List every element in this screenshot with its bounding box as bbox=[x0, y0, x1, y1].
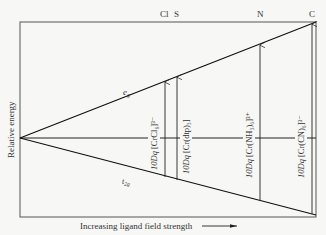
t2g-label: t2g bbox=[122, 177, 130, 187]
plot-frame bbox=[20, 22, 316, 217]
energy-diagram: 10Dq [CrCl₆]³⁻ 10Dq [Cr(dtp)₃] 10Dq [Cr(… bbox=[0, 0, 326, 235]
donor-n: N bbox=[257, 9, 264, 19]
y-axis-label: Relative energy bbox=[6, 101, 16, 158]
x-axis-label: Increasing ligand field strength bbox=[80, 221, 193, 231]
label-crcn6: 10Dq [Cr(CN)₆]³⁻ bbox=[296, 115, 306, 178]
label-crcl6: 10Dq [CrCl₆]³⁻ bbox=[149, 117, 159, 170]
donor-c: C bbox=[309, 9, 315, 19]
label-crdtp3: 10Dq [Cr(dtp)₃] bbox=[181, 119, 191, 174]
eg-line bbox=[20, 22, 316, 138]
donor-cl: Cl bbox=[160, 9, 169, 19]
donor-s: S bbox=[174, 9, 179, 19]
t2g-line bbox=[20, 138, 316, 215]
label-crnh36: 10Dq [Cr(NH₃)₆]³⁺ bbox=[244, 112, 254, 178]
eg-label: eg bbox=[123, 87, 130, 98]
